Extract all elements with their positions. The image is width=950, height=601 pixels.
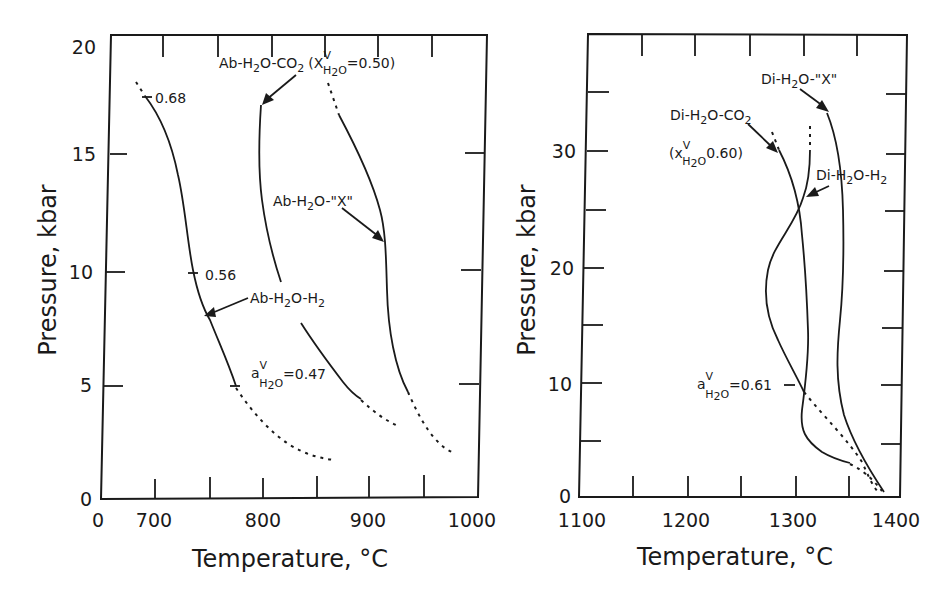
right-curve-h2-dotted-tail — [804, 392, 878, 492]
right-ytick-20: 20 — [550, 257, 574, 279]
left-curve-x-dotted-top — [328, 83, 339, 115]
right-ytick-30: 30 — [552, 140, 576, 162]
right-panel: 30 20 10 0 1100 1200 1300 1400 Temperatu… — [513, 34, 920, 571]
left-curve-h2-dotted-top — [136, 82, 145, 96]
left-label-h2: Ab-H2O-H2 — [250, 290, 325, 310]
right-plot-frame — [579, 34, 907, 497]
right-curve-h2 — [766, 150, 810, 392]
right-label-activity-061: aVH2O=0.61 — [697, 370, 772, 403]
right-xtick-1300: 1300 — [769, 509, 817, 531]
figure: 20 15 10 5 0 0 700 800 900 1000 Temperat… — [0, 0, 950, 601]
left-label-068: 0.68 — [155, 90, 186, 106]
left-curve-co2-dotted — [361, 400, 398, 426]
left-y-axis-label: Pressure, kbar — [34, 184, 62, 356]
right-curve-co2 — [779, 150, 850, 463]
right-label-h2: Di-H2O-H2 — [816, 167, 887, 187]
right-x-axis-label: Temperature, °C — [636, 543, 833, 571]
left-ytick-15: 15 — [72, 143, 96, 165]
left-ytick-5: 5 — [80, 374, 92, 396]
left-arrow-x — [342, 208, 384, 242]
left-x-ticks — [155, 36, 432, 499]
left-ytick-0: 0 — [80, 488, 92, 510]
left-curve-co2-lower — [301, 323, 361, 399]
right-arrow-h2 — [806, 186, 829, 197]
left-curve-h2-dotted-tail — [236, 388, 334, 460]
left-panel: 20 15 10 5 0 0 700 800 900 1000 Temperat… — [34, 35, 496, 573]
left-label-056: 0.56 — [205, 267, 236, 283]
left-y-ticks — [104, 153, 484, 386]
left-curve-x-dotted-tail — [408, 392, 452, 452]
left-curve-h2 — [145, 96, 236, 386]
left-arrow-h2 — [204, 298, 248, 317]
left-xtick-800: 800 — [245, 509, 281, 531]
left-x-axis-label: Temperature, °C — [191, 545, 388, 573]
left-xtick-1000: 1000 — [448, 509, 496, 531]
left-label-x: Ab-H2O-"X" — [273, 193, 353, 213]
right-label-co2-fraction: (xVH2O0.60) — [669, 139, 743, 170]
left-curve-x — [339, 115, 408, 392]
right-ytick-0: 0 — [559, 485, 571, 507]
left-xtick-700: 700 — [136, 509, 172, 531]
right-xtick-1100: 1100 — [558, 509, 606, 531]
right-curve-co2-dotted-tail — [850, 464, 882, 491]
right-xtick-1200: 1200 — [662, 509, 710, 531]
left-ytick-20: 20 — [72, 36, 96, 58]
left-ytick-10: 10 — [69, 261, 93, 283]
left-xtick-900: 900 — [350, 509, 386, 531]
right-ytick-10: 10 — [548, 373, 572, 395]
left-label-co2: Ab-H2O-CO2(XVH2O=0.50) — [219, 49, 395, 79]
right-y-axis-label: Pressure, kbar — [513, 184, 541, 356]
right-arrow-co2 — [748, 124, 778, 153]
left-label-activity-047: aVH2O=0.47 — [251, 359, 326, 392]
left-arrow-co2 — [262, 75, 296, 105]
right-xtick-1400: 1400 — [872, 509, 920, 531]
right-arrow-x — [800, 89, 829, 112]
right-label-x: Di-H2O-"X" — [761, 71, 837, 91]
left-xtick-0: 0 — [92, 509, 104, 531]
right-label-co2: Di-H2O-CO2 — [670, 107, 752, 127]
